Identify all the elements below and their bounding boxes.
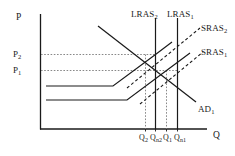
ad1-curve: [98, 26, 196, 102]
x-tick-label-q1: Q1: [163, 133, 172, 142]
curve-label-ad1-text: AD: [198, 104, 211, 114]
quantity-guide-lines: [146, 30, 178, 129]
x-tick-label-qn1-sub: n1: [180, 137, 186, 143]
x-axis-label: Q: [213, 130, 220, 140]
chart-canvas: [0, 0, 235, 156]
curve-label-lras2-text: LRAS: [131, 9, 154, 19]
y-tick-label-p1-sub: 1: [18, 69, 21, 76]
x-tick-label-qn1-text: Q: [174, 133, 180, 142]
y-tick-label-p1: P1: [13, 65, 21, 75]
x-tick-label-qn1: Qn1: [174, 133, 186, 142]
curve-label-sras2: SRAS2: [201, 23, 227, 33]
x-tick-label-qn2-sub: n2: [156, 137, 162, 143]
x-tick-label-q1-sub: 1: [169, 137, 172, 143]
ad-curve-group: [98, 26, 196, 102]
y-tick-label-p2: P2: [13, 49, 21, 59]
x-tick-label-q2-sub: 2: [145, 137, 148, 143]
price-guide-lines: [41, 55, 177, 71]
curve-label-lras1-text: LRAS: [167, 9, 190, 19]
curve-label-sras2-sub: 2: [224, 27, 227, 34]
x-tick-label-q1-text: Q: [163, 133, 169, 142]
sras2-curve: [127, 28, 200, 88]
y-tick-label-p2-sub: 2: [18, 53, 21, 60]
curve-label-sras1: SRAS1: [201, 47, 227, 57]
curve-label-lras2: LRAS2: [131, 9, 158, 19]
sras1-curve: [140, 52, 203, 104]
dashed-sras-curves: [127, 28, 203, 104]
x-tick-label-q2-text: Q: [139, 133, 145, 142]
curve-label-lras1-sub: 1: [190, 13, 193, 20]
curve-label-sras1-text: SRAS: [201, 47, 224, 57]
curve-label-sras2-text: SRAS: [201, 23, 224, 33]
axes: [40, 14, 207, 130]
solid-sras-curves: [46, 42, 190, 100]
x-tick-label-qn2: Qn2: [150, 133, 162, 142]
curve-label-ad1-sub: 1: [211, 108, 214, 115]
solid-sras-lower: [46, 53, 190, 100]
curve-label-sras1-sub: 1: [224, 51, 227, 58]
y-axis-label: P: [16, 12, 21, 22]
x-tick-label-q2: Q2: [139, 133, 148, 142]
curve-label-lras1: LRAS1: [167, 9, 194, 19]
solid-sras-upper: [46, 42, 172, 86]
aggregate-supply-demand-chart: P Q P2 P1 Q2 Qn2 Q1 Qn1 LRAS2 LRAS1 SRAS…: [0, 0, 235, 156]
curve-label-ad1: AD1: [198, 104, 215, 114]
curve-label-lras2-sub: 2: [154, 13, 157, 20]
x-tick-label-qn2-text: Q: [150, 133, 156, 142]
